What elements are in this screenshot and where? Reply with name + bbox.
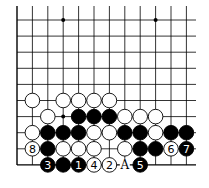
marker-label: A: [119, 158, 129, 172]
black-stone: [133, 125, 148, 140]
move-number: 8: [29, 143, 36, 156]
black-stone: [118, 125, 133, 140]
star-point: [61, 18, 65, 22]
move-number: 5: [137, 159, 144, 172]
move-number: 3: [44, 159, 51, 172]
black-stone: [41, 142, 56, 157]
white-stone: [102, 125, 117, 140]
move-number: 1: [75, 159, 82, 172]
white-stone: [71, 93, 86, 108]
white-stone: [87, 142, 102, 157]
move-number: 6: [168, 143, 175, 156]
black-stone: [41, 125, 56, 140]
white-stone: [87, 125, 102, 140]
white-stone: [25, 125, 40, 140]
move-number: 7: [183, 143, 190, 156]
white-stone: [118, 142, 133, 157]
black-stone: [102, 109, 117, 124]
black-stone: [71, 125, 86, 140]
go-board: A86731425: [0, 0, 209, 188]
black-stone: [148, 142, 163, 157]
white-stone: [118, 109, 133, 124]
white-stone: [133, 109, 148, 124]
white-stone: [56, 93, 71, 108]
star-point: [61, 115, 65, 119]
black-stone: [133, 142, 148, 157]
white-stone: [71, 142, 86, 157]
white-stone: [102, 93, 117, 108]
black-stone: [71, 109, 86, 124]
move-number: 2: [106, 159, 113, 172]
white-stone: [148, 125, 163, 140]
black-stone: [179, 125, 194, 140]
black-stone: [164, 125, 179, 140]
white-stone: [25, 93, 40, 108]
white-stone: [41, 109, 56, 124]
white-stone: [56, 142, 71, 157]
white-stone: [87, 93, 102, 108]
move-number: 4: [91, 159, 98, 172]
black-stone: [87, 109, 102, 124]
star-point: [154, 18, 158, 22]
white-stone: [148, 109, 163, 124]
black-stone: [56, 125, 71, 140]
black-stone: [56, 158, 71, 173]
